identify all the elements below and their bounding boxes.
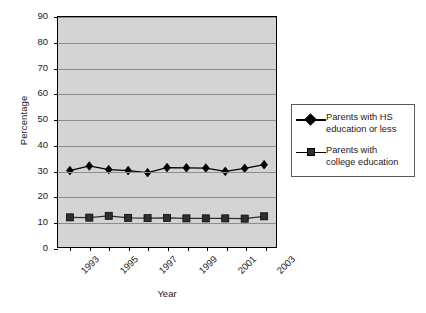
x-tick-label: 1999 <box>197 254 219 276</box>
legend-hs-line1: Parents with HS <box>326 112 393 122</box>
legend-college-line2: college education <box>326 157 398 167</box>
legend-item-college-label: Parents with college education <box>326 145 398 169</box>
x-tick-label: 1993 <box>79 254 101 276</box>
square-marker-icon <box>296 146 326 159</box>
x-axis-title: Year <box>57 288 277 299</box>
x-tick-label: 1995 <box>118 254 140 276</box>
legend-item-college[interactable]: Parents with college education <box>296 145 409 169</box>
chart-canvas: Percentage 0102030405060708090 199319951… <box>0 0 426 313</box>
diamond-marker-icon <box>296 113 326 126</box>
x-tick-label: 2003 <box>275 254 297 276</box>
legend-item-hs[interactable]: Parents with HS education or less <box>296 112 409 136</box>
x-tick-label: 1997 <box>158 254 180 276</box>
legend-college-line1: Parents with <box>326 145 377 155</box>
x-tick-label: 2001 <box>236 254 258 276</box>
legend-hs-line2: education or less <box>326 124 396 134</box>
legend-item-hs-label: Parents with HS education or less <box>326 112 396 136</box>
chart-legend: Parents with HS education or less Parent… <box>291 104 415 177</box>
